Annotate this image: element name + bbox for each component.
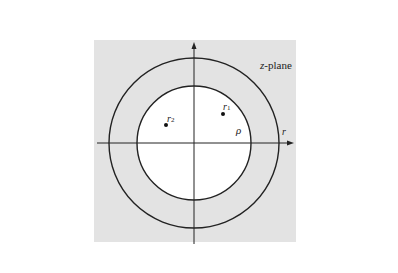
- point-r1: [221, 112, 225, 116]
- plane-label: z-plane: [259, 59, 292, 71]
- r-label: r: [282, 126, 286, 137]
- z-plane-diagram: z-plane r1 r2 ρ r: [0, 0, 398, 273]
- rho-label: ρ: [235, 124, 241, 136]
